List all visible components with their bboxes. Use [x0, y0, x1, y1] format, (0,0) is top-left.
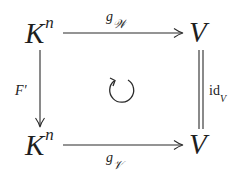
label-base: g: [106, 150, 113, 165]
node-top-right: V: [189, 18, 207, 47]
right-identity-lines: [199, 50, 203, 129]
node-base: K: [25, 17, 44, 49]
label-bottom-arrow: g𝒱: [106, 151, 123, 168]
node-bottom-right: V: [189, 130, 207, 159]
label-base: id: [209, 83, 220, 98]
label-base: F: [15, 83, 24, 98]
label-right-identity: idV: [209, 84, 226, 101]
label-subscript: 𝒱: [113, 158, 123, 170]
node-superscript: n: [45, 13, 54, 32]
node-base: V: [189, 128, 207, 160]
circular-arrow-icon: [110, 78, 134, 102]
label-base: g: [106, 9, 113, 24]
node-superscript: n: [45, 125, 54, 144]
label-subscript: V: [220, 93, 226, 104]
node-top-left: Kn: [25, 18, 54, 48]
label-prime: ′: [24, 83, 27, 98]
left-arrow: [36, 50, 45, 127]
node-base: K: [25, 129, 44, 161]
label-subscript: 𝒲: [113, 17, 126, 31]
bottom-arrow: [63, 141, 183, 150]
node-bottom-left: Kn: [25, 130, 54, 160]
label-left-arrow: F′: [15, 84, 27, 98]
label-top-arrow: g𝒲: [106, 10, 126, 27]
node-base: V: [189, 16, 207, 48]
